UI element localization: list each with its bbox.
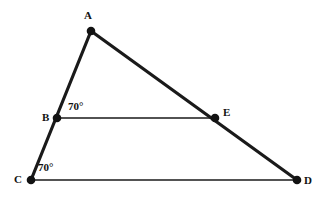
geometry-figure-canvas: A B C D E 70° 70°	[0, 0, 328, 201]
vertex-label-a: A	[84, 10, 92, 21]
vertex-dot-a	[87, 27, 96, 36]
vertex-dot-c	[27, 176, 36, 185]
angle-label-at-b: 70°	[68, 101, 83, 112]
vertex-dot-b	[53, 114, 62, 123]
vertex-label-e: E	[223, 107, 230, 118]
vertex-label-d: D	[304, 175, 312, 186]
vertex-dot-e	[211, 114, 220, 123]
vertex-label-c: C	[14, 174, 22, 185]
vertex-dot-d	[293, 176, 302, 185]
angle-label-at-c: 70°	[38, 162, 53, 173]
segment-a-d	[91, 31, 297, 180]
vertex-label-b: B	[42, 112, 49, 123]
